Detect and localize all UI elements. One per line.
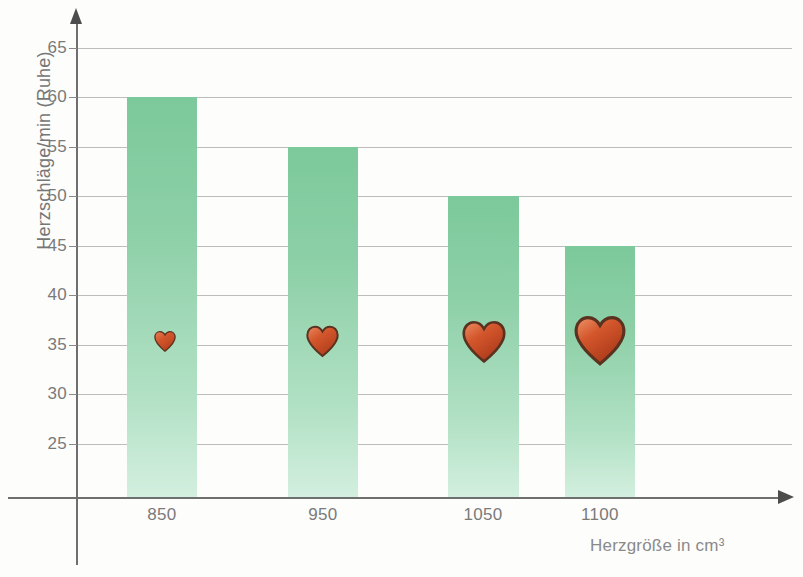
y-tick-35 <box>69 345 77 346</box>
x-axis-title: Herzgröße in cm³ <box>590 536 725 556</box>
heart-icon-950 <box>306 322 339 361</box>
y-tick-label-25: 25 <box>27 434 67 454</box>
y-tick-45 <box>69 246 77 247</box>
y-axis-line <box>76 20 78 565</box>
heart-icon-1050 <box>462 317 506 367</box>
heart-icon-850 <box>154 328 176 355</box>
x-tick-label-950: 950 <box>268 505 378 525</box>
y-tick-50 <box>69 196 77 197</box>
y-tick-label-40: 40 <box>27 285 67 305</box>
y-tick-55 <box>69 147 77 148</box>
y-axis-title: Herzschläge/min (Ruhe) <box>34 31 55 271</box>
x-axis-arrow-icon <box>778 490 794 504</box>
y-tick-30 <box>69 394 77 395</box>
gridline-65 <box>76 48 792 49</box>
x-tick-label-1050: 1050 <box>428 505 538 525</box>
plot-area: 65 60 55 50 45 40 35 30 25 850 950 1050 … <box>0 0 803 577</box>
y-tick-label-30: 30 <box>27 384 67 404</box>
bar-850 <box>127 97 197 497</box>
y-tick-label-35: 35 <box>27 335 67 355</box>
heart-icon-1100 <box>574 311 626 371</box>
chart-page: 65 60 55 50 45 40 35 30 25 850 950 1050 … <box>0 0 803 577</box>
y-axis-arrow-icon <box>70 8 82 24</box>
y-tick-40 <box>69 295 77 296</box>
x-axis-line <box>8 497 780 499</box>
x-tick-label-850: 850 <box>107 505 217 525</box>
x-tick-label-1100: 1100 <box>545 505 655 525</box>
y-tick-60 <box>69 97 77 98</box>
bar-1100 <box>565 246 635 497</box>
y-tick-65 <box>69 48 77 49</box>
y-tick-25 <box>69 444 77 445</box>
